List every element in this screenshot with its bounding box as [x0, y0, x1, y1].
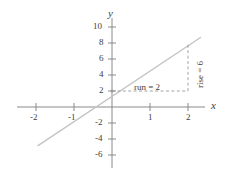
slope-graph-figure: x y -2 -1 1 2 10 8 6 4 2 -2 -4 -6 run = …: [0, 0, 229, 176]
y-tick-label-6: 6: [99, 54, 104, 63]
x-tick-label-pos2: 2: [186, 113, 191, 122]
plotted-line: [38, 38, 201, 146]
x-axis-label: x: [211, 100, 216, 111]
y-tick-label-2: 2: [99, 86, 104, 95]
y-axis-label: y: [108, 8, 113, 19]
y-intercept-point: [111, 90, 114, 93]
x-tick-label-pos1: 1: [148, 113, 153, 122]
run-annotation-label: run = 2: [134, 83, 160, 92]
y-tick-label-10: 10: [93, 22, 102, 31]
y-tick-label-4: 4: [99, 70, 104, 79]
y-tick-label-neg6: -6: [95, 150, 103, 159]
y-tick-label-8: 8: [99, 38, 104, 47]
y-tick-label-neg4: -4: [95, 134, 103, 143]
coordinate-plane-svg: [0, 0, 229, 176]
x-tick-label-neg2: -2: [30, 113, 38, 122]
x-tick-label-neg1: -1: [68, 113, 76, 122]
y-tick-label-neg2: -2: [95, 118, 103, 127]
rise-annotation-label: rise = 6: [196, 61, 205, 88]
